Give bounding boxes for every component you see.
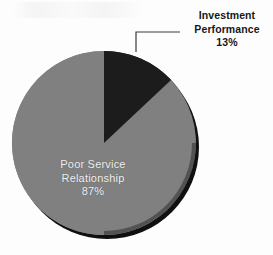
slice-label-line-2: Relationship — [38, 172, 148, 186]
slice-label-line-1: Poor Service — [38, 158, 148, 172]
callout-leader-line — [136, 32, 180, 52]
callout-label-investment-performance: Investment Performance 13% — [183, 9, 271, 50]
callout-label-line-1: Investment — [183, 9, 271, 23]
callout-label-percent: 13% — [183, 36, 271, 50]
slice-label-percent: 87% — [38, 185, 148, 199]
slice-label-poor-service-relationship: Poor Service Relationship 87% — [38, 158, 148, 199]
callout-label-line-2: Performance — [183, 23, 271, 37]
pie-chart-figure: Poor Service Relationship 87% Investment… — [0, 0, 273, 255]
